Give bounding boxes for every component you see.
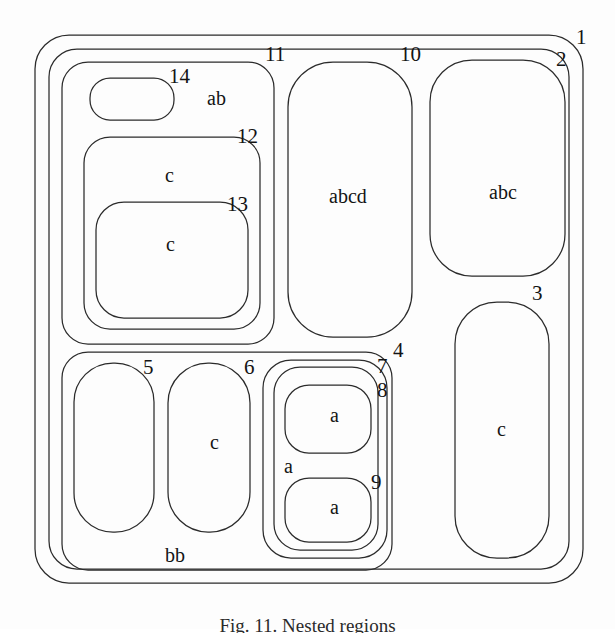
region-content-label: c [165,165,174,185]
region-number-label-5: 5 [143,357,154,378]
region-outline-1 [35,35,583,583]
region-content-label: c [210,432,219,452]
region-outline-abc [430,60,565,276]
region-outline-8 [285,385,371,453]
region-outline-13 [96,202,248,318]
region-outline-6 [168,363,250,532]
region-number-label-2: 2 [556,49,567,70]
region-shape-group [35,35,583,583]
region-number-label-14: 14 [169,66,190,87]
region-number-label-11: 11 [265,44,285,65]
region-content-label: ab [207,88,226,108]
region-outline-14 [90,78,174,120]
region-content-label: abcd [329,186,367,206]
region-content-label: bb [165,545,185,565]
region-content-label: abc [489,182,517,202]
region-number-label-6: 6 [244,357,255,378]
region-number-label-12: 12 [237,126,258,147]
figure-caption: Fig. 11. Nested regions [0,615,615,633]
region-outline-2 [49,49,569,569]
region-number-label-3: 3 [532,283,543,304]
region-content-label: a [330,405,339,425]
region-outline-5 [74,363,154,532]
region-number-label-13: 13 [227,194,248,215]
region-outline-9 [285,478,371,542]
region-number-label-7: 7 [377,356,388,377]
region-number-label-8: 8 [377,380,388,401]
region-content-label: c [166,234,175,254]
region-content-label: c [497,419,506,439]
region-number-label-1: 1 [576,27,587,48]
region-number-label-10: 10 [400,44,421,65]
region-number-label-9: 9 [371,472,382,493]
region-content-label: a [330,497,339,517]
region-content-label: a [284,456,293,476]
region-number-label-4: 4 [393,340,404,361]
